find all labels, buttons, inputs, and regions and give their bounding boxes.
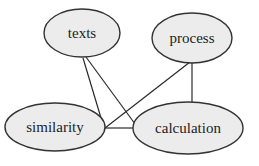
nodes-group: texts process similarity calculation bbox=[5, 9, 243, 154]
node-similarity: similarity bbox=[5, 103, 105, 151]
node-process: process bbox=[152, 13, 232, 63]
node-calculation-label: calculation bbox=[155, 120, 221, 136]
node-calculation: calculation bbox=[133, 102, 243, 154]
diagram-canvas: texts process similarity calculation bbox=[0, 0, 259, 166]
node-similarity-label: similarity bbox=[26, 119, 84, 135]
node-texts: texts bbox=[44, 9, 120, 57]
node-texts-label: texts bbox=[68, 25, 96, 41]
node-process-label: process bbox=[170, 30, 215, 46]
